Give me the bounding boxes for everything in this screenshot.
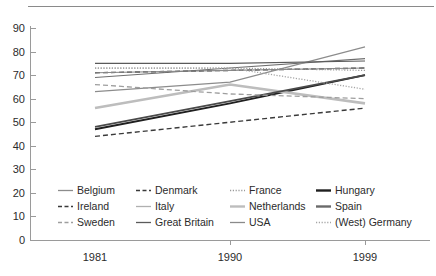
legend-swatch-icon bbox=[136, 219, 151, 226]
legend-item-netherlands[interactable]: Netherlands bbox=[230, 201, 316, 212]
legend-swatch-icon bbox=[58, 187, 73, 194]
legend-swatch-icon bbox=[316, 219, 331, 226]
y-tick bbox=[31, 146, 36, 147]
legend-item-west-germany[interactable]: (West) Germany bbox=[316, 217, 408, 228]
legend-swatch-icon bbox=[316, 187, 331, 194]
series-line-italy bbox=[95, 47, 365, 92]
series-line-netherlands bbox=[95, 85, 365, 109]
legend-swatch-icon bbox=[230, 203, 245, 210]
y-tick bbox=[31, 193, 36, 194]
x-tick-label: 1990 bbox=[200, 252, 260, 263]
legend-label: Sweden bbox=[77, 217, 115, 228]
legend-label: Italy bbox=[155, 201, 174, 212]
y-tick-label: 70 bbox=[0, 70, 25, 81]
legend-label: (West) Germany bbox=[335, 217, 412, 228]
legend-swatch-icon bbox=[316, 203, 331, 210]
legend-swatch-icon bbox=[58, 203, 73, 210]
x-tick bbox=[365, 241, 366, 245]
y-tick-label: 0 bbox=[0, 235, 25, 246]
y-tick bbox=[31, 28, 36, 29]
legend-item-great-britain[interactable]: Great Britain bbox=[136, 217, 230, 228]
series-line-great-britain bbox=[95, 61, 365, 63]
legend-swatch-icon bbox=[136, 187, 151, 194]
legend-item-usa[interactable]: USA bbox=[230, 217, 316, 228]
legend-swatch-icon bbox=[58, 219, 73, 226]
legend-item-ireland[interactable]: Ireland bbox=[58, 201, 136, 212]
legend-swatch-icon bbox=[230, 219, 245, 226]
y-tick-label: 60 bbox=[0, 94, 25, 105]
chart-legend: BelgiumDenmarkFranceHungaryIrelandItalyN… bbox=[58, 182, 408, 230]
series-line-hungary bbox=[95, 75, 365, 129]
legend-label: France bbox=[249, 185, 282, 196]
series-line-sweden bbox=[95, 85, 365, 99]
x-tick bbox=[230, 241, 231, 245]
y-tick bbox=[31, 240, 36, 241]
x-tick-label: 1981 bbox=[65, 252, 125, 263]
plot-area bbox=[0, 0, 436, 276]
x-tick-label: 1999 bbox=[335, 252, 395, 263]
legend-swatch-icon bbox=[136, 203, 151, 210]
legend-label: Great Britain bbox=[155, 217, 214, 228]
legend-label: Netherlands bbox=[249, 201, 306, 212]
y-tick-label: 30 bbox=[0, 164, 25, 175]
y-tick-label: 80 bbox=[0, 47, 25, 58]
legend-item-belgium[interactable]: Belgium bbox=[58, 185, 136, 196]
series-line-belgium bbox=[95, 59, 365, 78]
y-tick bbox=[31, 169, 36, 170]
series-line-ireland bbox=[95, 108, 365, 136]
legend-item-hungary[interactable]: Hungary bbox=[316, 185, 408, 196]
legend-item-denmark[interactable]: Denmark bbox=[136, 185, 230, 196]
y-tick bbox=[31, 52, 36, 53]
series-line-west-germany bbox=[95, 68, 365, 89]
series-line-denmark bbox=[95, 68, 365, 73]
header-rule bbox=[28, 6, 434, 7]
series-line-usa bbox=[95, 68, 365, 73]
legend-item-italy[interactable]: Italy bbox=[136, 201, 230, 212]
y-tick bbox=[31, 99, 36, 100]
legend-label: Hungary bbox=[335, 185, 375, 196]
y-tick-label: 90 bbox=[0, 23, 25, 34]
legend-item-spain[interactable]: Spain bbox=[316, 201, 408, 212]
y-tick bbox=[31, 122, 36, 123]
legend-label: Ireland bbox=[77, 201, 109, 212]
y-tick-label: 20 bbox=[0, 188, 25, 199]
series-line-spain bbox=[95, 75, 365, 127]
legend-label: Denmark bbox=[155, 185, 198, 196]
y-tick-label: 10 bbox=[0, 211, 25, 222]
legend-item-france[interactable]: France bbox=[230, 185, 316, 196]
y-tick bbox=[31, 75, 36, 76]
legend-swatch-icon bbox=[230, 187, 245, 194]
series-line-france bbox=[95, 68, 365, 70]
line-chart: 0102030405060708090 198119901999 Belgium… bbox=[0, 0, 436, 276]
legend-item-sweden[interactable]: Sweden bbox=[58, 217, 136, 228]
legend-label: Belgium bbox=[77, 185, 115, 196]
y-tick-label: 40 bbox=[0, 141, 25, 152]
y-tick-label: 50 bbox=[0, 117, 25, 128]
y-tick bbox=[31, 216, 36, 217]
legend-label: Spain bbox=[335, 201, 362, 212]
legend-label: USA bbox=[249, 217, 271, 228]
y-axis-line bbox=[30, 26, 31, 240]
